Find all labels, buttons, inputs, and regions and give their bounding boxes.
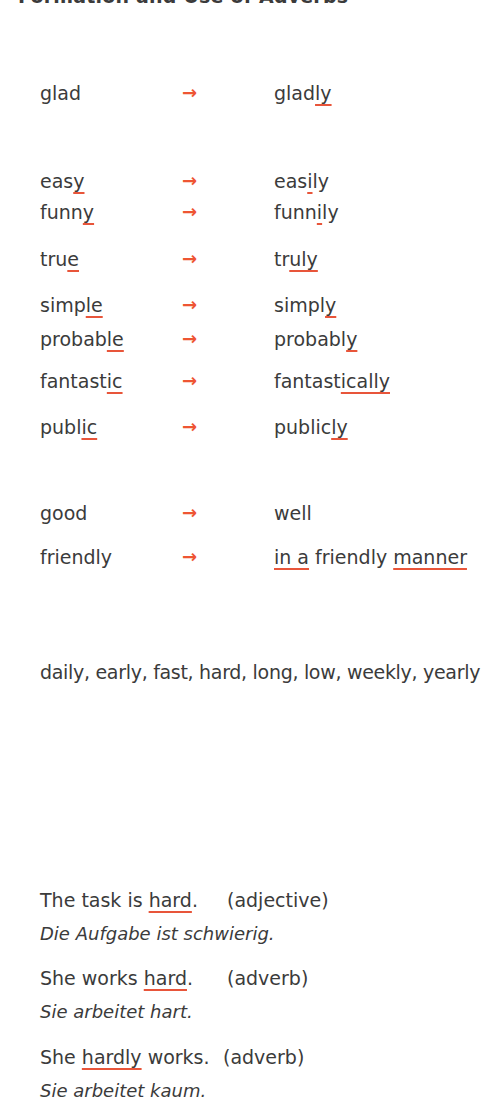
arrow-right-icon: → (182, 245, 197, 273)
word-type-label: (adverb) (227, 964, 308, 992)
adjective-ending-underlined: y (73, 170, 84, 192)
adjective: probable (40, 325, 124, 353)
adverb: easily (274, 167, 329, 195)
adjective: true (40, 245, 79, 273)
adverb: probably (274, 325, 357, 353)
adjective-stem: publ (40, 416, 81, 438)
adverb-phrase-underlined: manner (393, 546, 467, 568)
adverb: funnily (274, 198, 339, 226)
adjective: good (40, 499, 87, 527)
adjective-stem: tru (40, 248, 67, 270)
adjective-stem: eas (40, 170, 73, 192)
adjective: public (40, 413, 97, 441)
adverb: publicly (274, 413, 348, 441)
adverb: in a friendly manner (274, 543, 467, 571)
adverb-formation-row: good → well (0, 499, 491, 527)
arrow-right-icon: → (182, 499, 197, 527)
adjective: fantastic (40, 367, 123, 395)
arrow-right-icon: → (182, 413, 197, 441)
adverb-formation-row: simple → simply (0, 291, 491, 319)
sentence-pre: She (40, 1046, 82, 1068)
adverb: simply (274, 291, 336, 319)
adverb-stem: fantast (274, 370, 341, 392)
sentence-pre: The task is (40, 889, 149, 911)
adverb: truly (274, 245, 318, 273)
adverb-stem: public (274, 416, 331, 438)
adverb-formation-row: easy → easily (0, 167, 491, 195)
adverb-stem: eas (274, 170, 307, 192)
adverb-change-underlined: ically (341, 370, 390, 392)
adverb-formation-row: public → publicly (0, 413, 491, 441)
adjective-ending-underlined: ic (81, 416, 97, 438)
adjective-ending-underlined: e (67, 248, 79, 270)
adjective-stem: fantast (40, 370, 107, 392)
sentence-keyword-underlined: hardly (82, 1046, 142, 1068)
sentence-keyword-underlined: hard (144, 967, 187, 989)
adverb-stem: probabl (274, 328, 346, 350)
adverb-change-underlined: uly (289, 248, 318, 270)
adverb-formation-row: true → truly (0, 245, 491, 273)
word-type-label: (adverb) (223, 1043, 304, 1071)
adjective-ending-underlined: le (86, 294, 103, 316)
example-sentence: She works hard. (adverb) (40, 964, 193, 992)
adverb-stem: tr (274, 248, 289, 270)
adverb-suffix: ly (322, 201, 339, 223)
adverb-stem: glad (274, 82, 315, 104)
adverb-formation-row: funny → funnily (0, 198, 491, 226)
adverb-suffix-underlined: ly (315, 82, 332, 104)
adverb-stem: simpl (274, 294, 325, 316)
adjective: funny (40, 198, 94, 226)
adverb-formation-row: fantastic → fantastically (0, 367, 491, 395)
sentence-post: . (187, 967, 193, 989)
adjective: glad (40, 79, 81, 107)
arrow-right-icon: → (182, 367, 197, 395)
adverb-phrase-middle: friendly (309, 546, 393, 568)
adjective: friendly (40, 543, 112, 571)
sentence-keyword-underlined: hard (149, 889, 192, 911)
arrow-right-icon: → (182, 79, 197, 107)
adverb-change-underlined: ly (331, 416, 348, 438)
adjective-ending-underlined: le (107, 328, 124, 350)
example-translation: Sie arbeitet hart. (40, 999, 193, 1025)
sentence-post: . (192, 889, 198, 911)
adverb-phrase-underlined: in a (274, 546, 309, 568)
example-translation: Die Aufgabe ist schwierig. (40, 921, 275, 947)
word-type-label: (adjective) (227, 886, 329, 914)
adverb: well (274, 499, 312, 527)
adjective-stem: funn (40, 201, 83, 223)
adjective-stem: glad (40, 82, 81, 104)
adjective-stem: simp (40, 294, 86, 316)
adverb: fantastically (274, 367, 390, 395)
adjective: easy (40, 167, 84, 195)
sentence-pre: She works (40, 967, 144, 989)
arrow-right-icon: → (182, 167, 197, 195)
adjective-stem: probab (40, 328, 107, 350)
arrow-right-icon: → (182, 291, 197, 319)
arrow-right-icon: → (182, 325, 197, 353)
adverb-formation-row: glad → gladly (0, 79, 491, 107)
page-title: Formation and Use of Adverbs (18, 0, 348, 7)
adverb-stem: funn (274, 201, 317, 223)
adverb: gladly (274, 79, 332, 107)
adjective: simple (40, 291, 103, 319)
same-form-adverbs-list: daily, early, fast, hard, long, low, wee… (40, 658, 480, 686)
adverb-formation-row: friendly → in a friendly manner (0, 543, 491, 571)
adverb-suffix: ly (313, 170, 330, 192)
example-sentence: The task is hard. (adjective) (40, 886, 198, 914)
adverb-formation-row: probable → probably (0, 325, 491, 353)
sentence-post: works. (142, 1046, 210, 1068)
example-translation: Sie arbeitet kaum. (40, 1078, 206, 1104)
adjective-ending-underlined: ic (107, 370, 123, 392)
example-sentence: She hardly works. (adverb) (40, 1043, 210, 1071)
adverb-change-underlined: y (346, 328, 357, 350)
adjective-ending-underlined: y (83, 201, 94, 223)
arrow-right-icon: → (182, 198, 197, 226)
adverb-change-underlined: y (325, 294, 336, 316)
arrow-right-icon: → (182, 543, 197, 571)
